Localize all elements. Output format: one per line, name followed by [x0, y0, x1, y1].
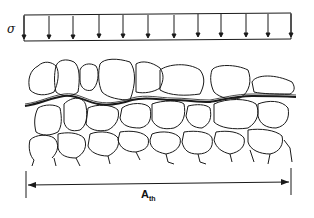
- fracture-surface: [25, 94, 296, 106]
- diagram-canvas: [0, 0, 314, 218]
- distributed-load: [24, 13, 291, 41]
- dimension-label: Ath: [141, 188, 156, 202]
- dimension-label-subscript: th: [149, 195, 156, 202]
- dimension-line: [26, 168, 291, 198]
- lower-grains: [29, 98, 292, 166]
- stress-label: σ: [7, 22, 15, 36]
- load-arrows: [22, 14, 293, 39]
- dimension-label-main: A: [141, 188, 149, 200]
